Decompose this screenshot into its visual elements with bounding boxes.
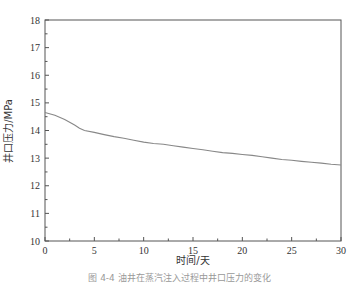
- x-tick-label: 0: [43, 245, 48, 256]
- x-axis-label: 时间/天: [176, 254, 209, 266]
- x-tick-label: 10: [139, 245, 149, 256]
- y-tick-label: 14: [30, 125, 40, 136]
- x-tick-label: 5: [92, 245, 97, 256]
- data-series: [45, 113, 341, 166]
- line-chart: 101112131415161718051015202530 时间/天 井口压力…: [0, 0, 359, 286]
- x-tick-label: 20: [237, 245, 247, 256]
- y-tick-label: 15: [30, 97, 40, 108]
- pressure-line: [45, 113, 341, 166]
- y-tick-label: 16: [30, 70, 40, 81]
- y-tick-label: 12: [30, 180, 40, 191]
- plot-frame: [45, 20, 341, 241]
- x-tick-label: 25: [287, 245, 297, 256]
- y-tick-label: 18: [30, 15, 40, 26]
- x-tick-label: 30: [336, 245, 346, 256]
- y-tick-label: 11: [30, 208, 40, 219]
- y-tick-label: 17: [30, 42, 40, 53]
- y-tick-label: 10: [30, 236, 40, 247]
- y-axis-label: 井口压力/MPa: [2, 99, 14, 163]
- plot-axes: 101112131415161718051015202530: [30, 15, 346, 257]
- y-tick-label: 13: [30, 153, 40, 164]
- figure-caption: 图 4-4 油井在蒸汽注入过程中井口压力的变化: [0, 271, 359, 284]
